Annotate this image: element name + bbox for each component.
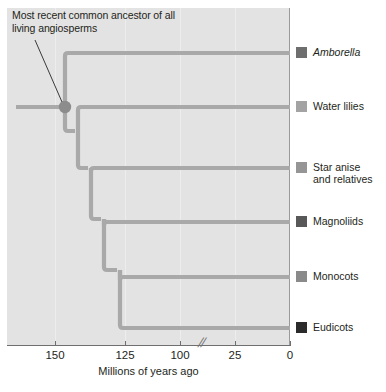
branch-node4-to-node5 — [104, 219, 117, 270]
legend-item-star-anise: Star anise and relatives — [296, 161, 373, 185]
branch-node3-to-node4 — [91, 168, 101, 219]
branch-node2-to-node3 — [78, 131, 88, 168]
branch-monocots — [120, 270, 290, 280]
legend-item-eudicots: Eudicots — [296, 321, 353, 333]
legend-item-water-lilies: Water lilies — [296, 100, 364, 112]
x-axis-line — [7, 345, 290, 346]
x-tick-125 — [125, 341, 126, 346]
x-tick-label-125: 125 — [105, 349, 145, 361]
root-node-dot — [59, 101, 71, 113]
branch-magnoliids — [104, 219, 290, 225]
legend-label-monocots: Monocots — [313, 270, 359, 282]
legend-label-magnoliids: Magnoliids — [313, 215, 363, 227]
x-tick-label-0: 0 — [270, 349, 310, 361]
branch-water-lilies — [78, 107, 290, 131]
x-tick-label-100: 100 — [160, 349, 200, 361]
legend-label-amborella: Amborella — [313, 46, 360, 58]
tree-branches — [0, 0, 386, 392]
x-tick-label-150: 150 — [35, 349, 75, 361]
legend-item-monocots: Monocots — [296, 270, 359, 282]
legend-swatch-magnoliids — [296, 216, 307, 227]
legend-label-water-lilies: Water lilies — [313, 100, 364, 112]
legend-swatch-water-lilies — [296, 101, 307, 112]
x-tick-25 — [235, 341, 236, 346]
legend-swatch-star-anise — [296, 162, 307, 173]
legend-swatch-amborella — [296, 47, 307, 58]
branch-star-anise — [91, 168, 290, 171]
phylogenetic-tree-figure: Most recent common ancestor of all livin… — [0, 0, 386, 392]
x-tick-150 — [55, 341, 56, 346]
x-tick-label-25: 25 — [215, 349, 255, 361]
legend-item-magnoliids: Magnoliids — [296, 215, 363, 227]
ancestor-annotation: Most recent common ancestor of all livin… — [12, 9, 192, 34]
legend-label-eudicots: Eudicots — [313, 321, 353, 333]
legend-swatch-monocots — [296, 271, 307, 282]
legend-item-amborella: Amborella — [296, 46, 360, 58]
x-tick-100 — [180, 341, 181, 346]
legend-label-star-anise: Star anise and relatives — [313, 161, 373, 185]
legend-swatch-eudicots — [296, 322, 307, 333]
x-tick-0 — [290, 341, 291, 346]
x-axis-title: Millions of years ago — [7, 365, 290, 377]
annotation-leader-line — [35, 40, 62, 102]
branch-amborella — [65, 53, 290, 107]
